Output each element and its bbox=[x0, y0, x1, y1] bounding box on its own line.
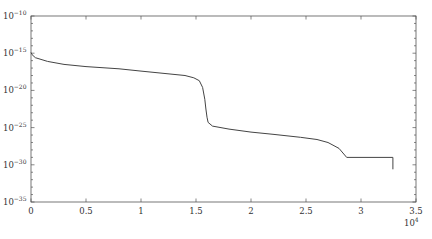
x-tick-label: 3 bbox=[358, 206, 363, 216]
y-tick-label: 10−20 bbox=[3, 83, 27, 95]
y-tick-label: 10−25 bbox=[3, 121, 27, 133]
y-tick-label: 10−30 bbox=[3, 158, 27, 170]
line-chart: 00.511.522.533.5 10−1010−1510−2010−2510−… bbox=[0, 0, 432, 239]
x-tick-label: 1 bbox=[138, 206, 143, 216]
x-tick-label: 0.5 bbox=[79, 206, 93, 216]
y-axis-tick-labels: 10−1010−1510−2010−2510−3010−35 bbox=[3, 9, 27, 207]
data-line bbox=[31, 53, 393, 170]
x-axis-tick-labels: 00.511.522.533.5 bbox=[28, 206, 422, 216]
x-tick-label: 2.5 bbox=[299, 206, 313, 216]
plot-frame bbox=[31, 16, 416, 202]
x-axis-multiplier: 104 bbox=[404, 216, 419, 228]
x-tick-label: 2 bbox=[248, 206, 253, 216]
y-tick-label: 10−10 bbox=[3, 9, 27, 21]
x-axis-ticks bbox=[31, 16, 416, 202]
y-tick-label: 10−35 bbox=[3, 195, 27, 207]
y-tick-label: 10−15 bbox=[3, 46, 27, 58]
x-tick-label: 3.5 bbox=[409, 206, 423, 216]
x-tick-label: 1.5 bbox=[189, 206, 203, 216]
y-axis-ticks bbox=[31, 16, 416, 202]
x-tick-label: 0 bbox=[28, 206, 33, 216]
